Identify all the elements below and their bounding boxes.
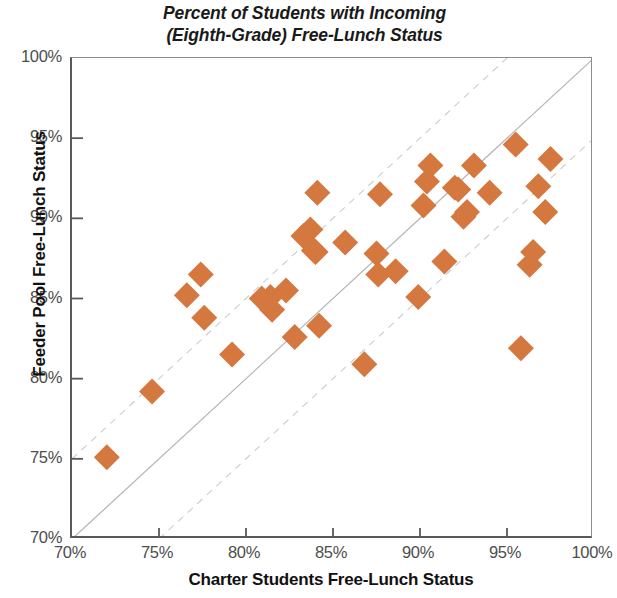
- data-point: [525, 173, 551, 199]
- data-point: [94, 444, 120, 470]
- data-point: [188, 261, 214, 287]
- x-tick-label: 95%: [465, 543, 545, 562]
- data-point: [461, 152, 487, 178]
- data-point: [532, 199, 558, 225]
- data-point: [477, 180, 503, 206]
- data-point: [282, 324, 308, 350]
- data-point: [503, 132, 529, 158]
- x-tick-label: 80%: [204, 543, 284, 562]
- x-tick-label: 90%: [378, 543, 458, 562]
- data-point: [364, 241, 390, 267]
- x-tick-label: 85%: [291, 543, 371, 562]
- x-axis-title: Charter Students Free-Lunch Status: [70, 570, 592, 590]
- data-point: [306, 313, 332, 339]
- x-tick-label: 70%: [30, 543, 110, 562]
- data-point: [191, 305, 217, 331]
- plot-canvas: [72, 58, 592, 538]
- x-tick-label: 75%: [117, 543, 197, 562]
- data-point: [383, 258, 409, 284]
- data-point: [367, 181, 393, 207]
- x-axis-tick-labels: 70%75%80%85%90%95%100%: [70, 543, 592, 567]
- data-point: [139, 378, 165, 404]
- plot-area: [70, 57, 592, 538]
- data-point: [351, 351, 377, 377]
- data-point: [445, 176, 471, 202]
- data-point: [332, 229, 358, 255]
- data-point: [508, 335, 534, 361]
- data-point: [304, 180, 330, 206]
- data-point: [405, 284, 431, 310]
- x-tick-label: 100%: [552, 543, 617, 562]
- reference-line-identity: [72, 58, 592, 538]
- y-axis-title: Feeder Pool Free-Lunch Status: [30, 44, 50, 464]
- data-point: [431, 249, 457, 275]
- chart-title: Percent of Students with Incoming (Eight…: [0, 2, 609, 46]
- data-point: [219, 342, 245, 368]
- data-point: [410, 193, 436, 219]
- data-point: [538, 146, 564, 172]
- data-point: [174, 282, 200, 308]
